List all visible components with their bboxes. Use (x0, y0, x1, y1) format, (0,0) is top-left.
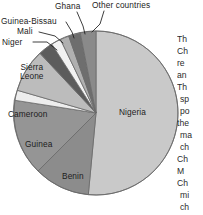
slice-label-sierra-leone-line2: Leone (20, 72, 44, 81)
slice-label-other-countries: Other countries (92, 1, 150, 10)
body-text-line: re (177, 57, 203, 69)
body-text-line: ma (177, 129, 203, 141)
body-text-line: mi (177, 189, 203, 201)
body-text-line: Ch (177, 45, 203, 57)
slice-label-mali: Mali (17, 27, 33, 36)
body-text-line: Th (177, 33, 203, 45)
body-text-line: po (177, 105, 203, 117)
body-text-line: the (177, 117, 203, 129)
body-text-line: M (177, 165, 203, 177)
leader-line-ghana (77, 12, 85, 34)
body-text-line: ch (177, 201, 203, 213)
slice-label-guinea: Guinea (25, 140, 52, 149)
slice-label-benin: Benin (62, 172, 84, 181)
slice-label-guinea-bissau: Guinea-Bissau (1, 17, 57, 26)
slice-label-ghana: Ghana (55, 2, 80, 11)
body-text-line: an (177, 69, 203, 81)
slice-label-sierra-leone: Sierra Leone (20, 63, 44, 80)
slice-label-niger: Niger (2, 38, 22, 47)
leader-line-other-countries (92, 11, 104, 32)
body-text-line: sp (177, 93, 203, 105)
slice-label-cameroon: Cameroon (8, 110, 48, 119)
body-text-line: Ch (177, 153, 203, 165)
body-text-line: Th (177, 81, 203, 93)
slice-label-nigeria: Nigeria (119, 108, 146, 117)
body-text-column: Th Ch re an Th sp po the ma ch Ch M Ch m… (177, 33, 203, 213)
body-text-line: ch (177, 141, 203, 153)
body-text-line: Ch (177, 177, 203, 189)
pie-chart-figure: Nigeria Benin Guinea Cameroon Sierra Leo… (0, 0, 203, 215)
